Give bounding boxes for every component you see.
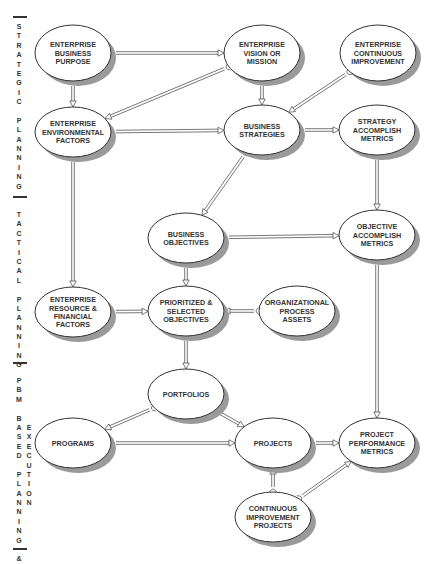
arrowhead-icon (70, 101, 76, 107)
arrowhead-icon (183, 363, 189, 369)
connector-port-prog (105, 405, 156, 430)
arrowhead-icon (218, 50, 224, 56)
arrowhead-icon (229, 440, 235, 446)
node-label: FACTORS (56, 320, 90, 329)
node-oam: OBJECTIVEACCOMPLISHMETRICS (339, 210, 420, 265)
connector-eef-bs (111, 127, 224, 135)
node-eci: ENTERPRISECONTINUOUSIMPROVEMENT (340, 25, 421, 86)
node-cip: CONTINUOUSIMPROVEMENTPROJECTS (235, 492, 316, 547)
connector-eef-erf (70, 157, 77, 287)
connector-bo-oam (224, 232, 339, 240)
arrowhead-icon (333, 232, 339, 238)
node-bo: BUSINESSOBJECTIVES (148, 213, 229, 268)
connector-oam-ppm (374, 260, 381, 418)
node-evm: ENTERPRISEVISION ORMISSION (224, 25, 305, 86)
arrowhead-icon (374, 204, 380, 210)
node-sam: STRATEGYACCOMPLISHMETRICS (339, 105, 420, 160)
arrowhead-icon (259, 99, 265, 105)
connector-cip-ppm (297, 461, 351, 501)
node-erf: ENTERPRISERESOURCE &FINANCIALFACTORS (35, 287, 116, 342)
node-label: PROGRAMS (52, 439, 95, 448)
connector-erf-pso (111, 308, 148, 315)
node-label: PORTFOLIOS (163, 390, 210, 399)
node-label: PURPOSE (55, 57, 90, 66)
arrowhead-icon (218, 127, 224, 133)
connector-bs-bo (202, 151, 249, 216)
arrowhead-icon (105, 113, 112, 119)
nodes: ENTERPRISEBUSINESSPURPOSEENTERPRISEVISIO… (35, 25, 421, 547)
node-prog: PROGRAMS (35, 418, 116, 473)
node-label: PROJECTS (254, 439, 293, 448)
connector-ebp-evm (111, 50, 224, 57)
arrowhead-icon (183, 280, 189, 286)
connectors (70, 50, 381, 502)
node-ppm: PROJECTPERFORMANCEMETRICS (339, 418, 420, 473)
arrowhead-icon (333, 127, 339, 133)
arrowhead-icon (333, 440, 339, 446)
arrowhead-icon (105, 424, 112, 430)
connector-eci-bs (289, 69, 352, 112)
arrowhead-icon (70, 281, 76, 287)
node-port: PORTFOLIOS (148, 369, 229, 424)
node-label: STRATEGIES (239, 130, 285, 139)
connector-prog-proj (111, 440, 235, 447)
node-label: IMPROVEMENT (351, 57, 405, 66)
arrowhead-icon (142, 308, 148, 314)
node-label: FACTORS (56, 136, 90, 145)
node-label: OBJECTIVES (163, 315, 209, 324)
node-label: PROJECTS (254, 521, 293, 530)
node-label: OBJECTIVES (163, 238, 209, 247)
node-label: METRICS (361, 134, 394, 143)
connector-opa-pso (224, 308, 259, 315)
node-label: ASSETS (283, 315, 312, 324)
connector-sam-oam (374, 155, 381, 210)
node-label: METRICS (361, 447, 394, 456)
arrowhead-icon (374, 412, 380, 418)
node-label: METRICS (361, 239, 394, 248)
node-label: MISSION (247, 57, 277, 66)
node-eef: ENTERPRISEENVIRONMENTALFACTORS (35, 107, 116, 162)
node-bs: BUSINESSSTRATEGIES (224, 105, 305, 160)
node-proj: PROJECTS (235, 418, 316, 473)
connector-bs-sam (300, 127, 339, 134)
arrowhead-icon (344, 461, 351, 467)
node-pso: PRIORITIZED &SELECTEDOBJECTIVES (148, 286, 229, 341)
connector-pso-port (183, 336, 190, 369)
node-ebp: ENTERPRISEBUSINESSPURPOSE (35, 25, 116, 86)
connector-evm-eef (105, 64, 230, 120)
node-opa: ORGANIZATIONALPROCESSASSETS (259, 286, 340, 341)
